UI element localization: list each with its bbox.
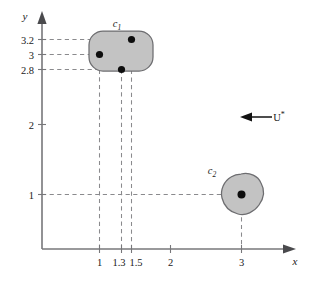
flow-annotation-label: U* <box>273 110 285 124</box>
tick-label-x-1: 1 <box>97 257 102 268</box>
axis-y-tick-labels: 3.2 3 2.8 2 1 <box>21 35 34 201</box>
tick-label-y-3.2: 3.2 <box>21 35 34 46</box>
tick-label-x-1.5: 1.5 <box>129 257 142 268</box>
figure-container: y x 3.2 3 2.8 2 1 1 1.3 1.5 2 3 c1 c2 <box>0 0 311 290</box>
axis-y-label: y <box>22 10 28 22</box>
tick-label-x-1.3: 1.3 <box>112 257 125 268</box>
data-point-c1-b <box>96 51 103 58</box>
axis-x-label: x <box>292 255 298 267</box>
flow-arrow-head-icon <box>240 113 252 122</box>
shape-c2-label: c2 <box>208 165 217 179</box>
flow-arrow <box>240 113 272 122</box>
axis-labels: y x <box>22 10 298 267</box>
data-point-c1-a <box>128 36 135 43</box>
flow-label: U* <box>273 110 285 124</box>
tick-label-y-1: 1 <box>29 190 34 201</box>
shape-c1-label: c1 <box>113 18 121 32</box>
axis-y-arrowhead <box>37 11 46 24</box>
data-point-c1-c <box>118 66 125 73</box>
shape-c2-label-subscript: 2 <box>212 170 216 179</box>
tick-label-x-2: 2 <box>168 257 173 268</box>
shape-c1-label-subscript: 1 <box>117 23 121 32</box>
shape-c1 <box>89 31 153 71</box>
shape-c1-body <box>89 31 153 71</box>
flow-label-superscript: * <box>281 110 285 119</box>
axis-x-tick-labels: 1 1.3 1.5 2 3 <box>97 257 244 268</box>
axis-x-arrowhead <box>283 244 296 253</box>
axis-y <box>37 11 46 249</box>
axis-x <box>42 244 296 253</box>
tick-label-y-2.8: 2.8 <box>21 65 34 76</box>
tick-label-y-3: 3 <box>29 50 34 61</box>
tick-label-x-3: 3 <box>239 257 244 268</box>
data-point-c2-a <box>238 191 246 199</box>
coordinate-plot: y x 3.2 3 2.8 2 1 1 1.3 1.5 2 3 c1 c2 <box>0 0 311 290</box>
tick-label-y-2: 2 <box>29 120 34 131</box>
